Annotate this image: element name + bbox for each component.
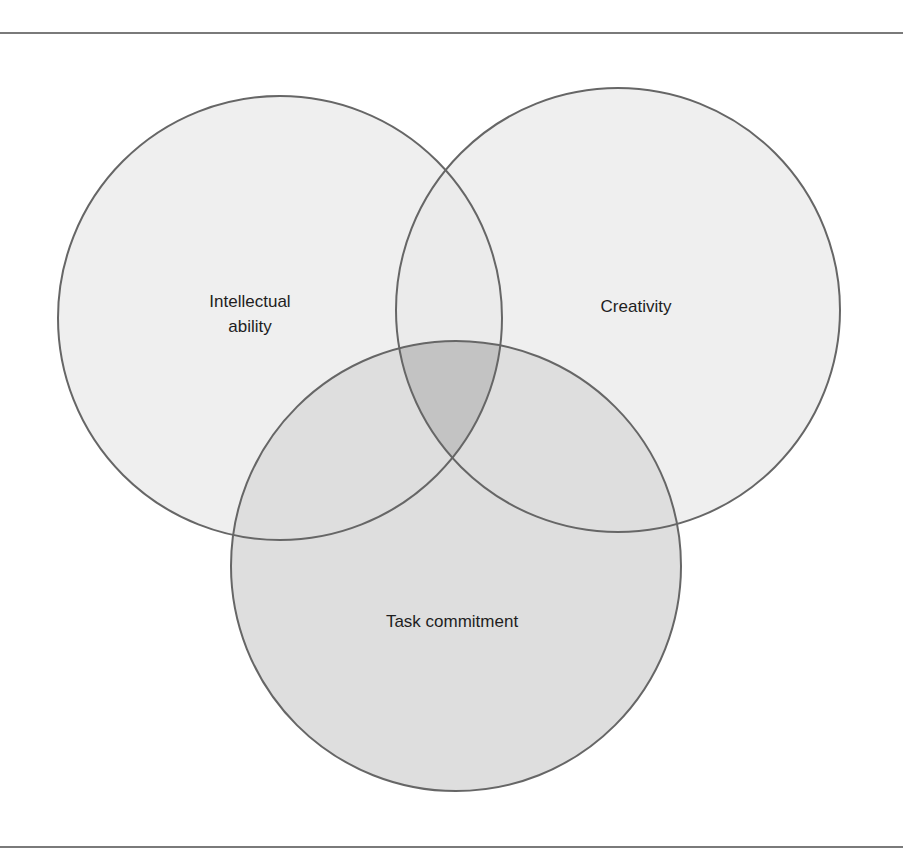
label-creativity: Creativity — [601, 297, 672, 316]
label-task-commitment: Task commitment — [386, 612, 519, 631]
bottom-rule — [0, 846, 903, 848]
venn-diagram: Intellectual ability Creativity Task com… — [0, 0, 903, 851]
label-intellectual-ability-line1: Intellectual — [209, 292, 290, 311]
label-intellectual-ability-line2: ability — [228, 317, 272, 336]
